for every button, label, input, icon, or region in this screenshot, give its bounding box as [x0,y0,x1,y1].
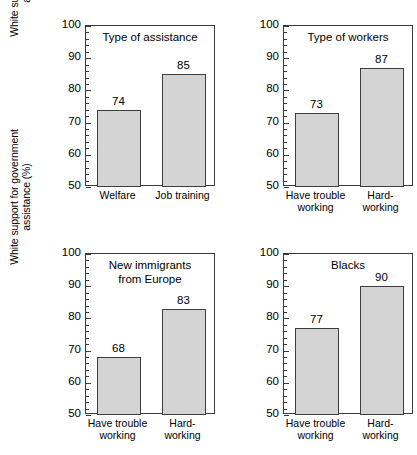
plot-area: Type of workers7387 [283,25,413,186]
y-axis-minor-tick [86,78,89,79]
y-axis-major-tick [284,155,289,156]
y-axis-major-tick [86,318,91,319]
y-axis-minor-tick [284,110,287,111]
y-axis-major-tick [284,415,289,416]
x-axis-category-label: Hard-working [341,189,417,213]
bar-value-label: 87 [357,54,407,66]
bar [97,357,141,415]
x-axis-category-label-line: working [341,201,417,213]
y-axis-label-line: White support for government [8,129,21,265]
x-axis-category-label: Hard-working [341,417,417,441]
y-axis-major-tick [284,90,289,91]
y-axis-minor-tick [86,363,89,364]
y-axis-minor-tick [284,161,287,162]
y-axis-tick-label: 70 [266,116,279,128]
bar [97,110,141,187]
y-axis-minor-tick [284,363,287,364]
y-axis-minor-tick [86,161,89,162]
y-axis-minor-tick [86,306,89,307]
y-axis-minor-tick [86,45,89,46]
x-axis-category-label-line: working [341,429,417,441]
y-axis-tick-label: 100 [260,19,279,31]
bar [360,286,404,415]
bar-value-label: 90 [357,272,407,284]
y-axis-minor-tick [86,116,89,117]
y-axis-minor-tick [86,409,89,410]
y-axis-minor-tick [86,370,89,371]
y-axis-minor-tick [284,65,287,66]
y-axis-minor-tick [284,174,287,175]
y-axis-minor-tick [86,389,89,390]
panel-title: New immigrantsfrom Europe [86,259,214,286]
y-axis-major-tick [86,415,91,416]
y-axis-minor-tick [284,78,287,79]
y-axis-minor-tick [86,293,89,294]
y-axis-tick-label: 60 [68,376,81,388]
y-axis-minor-tick [284,168,287,169]
y-axis-minor-tick [284,376,287,377]
y-axis-tick-label: 70 [68,344,81,356]
y-axis-major-tick [86,383,91,384]
y-axis-tick-label: 90 [68,279,81,291]
y-axis-major-tick [284,318,289,319]
y-axis-minor-tick [284,299,287,300]
y-axis-minor-tick [284,402,287,403]
y-axis-tick-label: 70 [68,116,81,128]
y-axis-minor-tick [86,174,89,175]
y-axis-major-tick [86,123,91,124]
y-axis-minor-tick [284,103,287,104]
y-axis-tick-label: 100 [62,247,81,259]
bar-value-label: 73 [292,99,342,111]
panel-title-line: New immigrants [86,259,214,273]
bar [360,68,404,187]
y-axis-minor-tick [86,135,89,136]
y-axis-major-tick [284,286,289,287]
panel-title: Type of assistance [86,31,214,45]
y-axis-minor-tick [284,293,287,294]
y-axis-tick-label: 90 [266,51,279,63]
y-axis-tick-label: 80 [266,311,279,323]
panel-title: Blacks [284,259,412,273]
y-axis-minor-tick [284,396,287,397]
y-axis-minor-tick [86,110,89,111]
bar-value-label: 74 [94,96,144,108]
y-axis-major-tick [284,383,289,384]
y-axis-minor-tick [284,280,287,281]
y-axis-minor-tick [284,97,287,98]
y-axis-minor-tick [284,325,287,326]
y-axis-minor-tick [284,181,287,182]
y-axis-minor-tick [86,325,89,326]
y-axis-minor-tick [284,116,287,117]
y-axis-tick-label: 100 [260,247,279,259]
y-axis-minor-tick [86,402,89,403]
x-axis-category-label-line: Hard- [341,417,417,429]
y-axis-label-line: White support for government [8,0,21,37]
y-axis-minor-tick [284,148,287,149]
y-axis-major-tick [86,155,91,156]
y-axis-minor-tick [86,65,89,66]
y-axis-minor-tick [86,129,89,130]
y-axis-minor-tick [284,135,287,136]
y-axis-minor-tick [284,129,287,130]
plot-area: New immigrantsfrom Europe6883 [85,253,215,414]
y-axis-minor-tick [86,168,89,169]
y-axis-label-line: assistance (%) [20,163,33,230]
y-axis-minor-tick [284,331,287,332]
y-axis-minor-tick [86,396,89,397]
y-axis-tick-label: 100 [62,19,81,31]
y-axis-minor-tick [284,142,287,143]
y-axis-minor-tick [284,312,287,313]
y-axis-minor-tick [86,52,89,53]
y-axis-minor-tick [86,357,89,358]
plot-area: Blacks7790 [283,253,413,414]
bar [295,113,339,187]
y-axis-minor-tick [86,181,89,182]
y-axis-minor-tick [86,299,89,300]
bar-value-label: 77 [292,314,342,326]
panel-title-line: Blacks [284,259,412,273]
y-axis-tick-label: 70 [266,344,279,356]
y-axis-major-tick [86,351,91,352]
x-axis-category-label-line: Hard- [341,189,417,201]
chart-panel-blacks: 5060708090100Have troubleworkingHard-wor… [198,228,395,455]
y-axis-tick-label: 60 [68,148,81,160]
